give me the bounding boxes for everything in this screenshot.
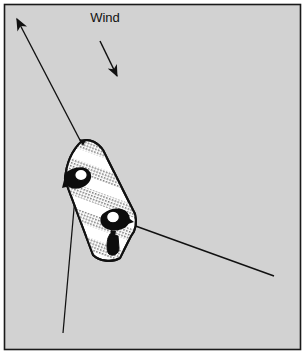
- figure-frame: [5, 5, 301, 350]
- crew-stern-head: [107, 211, 120, 223]
- figure-root: Wind: [0, 0, 305, 354]
- boat-anchoring-diagram: Wind: [0, 0, 305, 354]
- wind-label: Wind: [90, 10, 120, 25]
- outboard-motor-body: [107, 234, 119, 255]
- outboard-motor-head: [110, 230, 116, 237]
- crew-bow-head: [75, 169, 87, 180]
